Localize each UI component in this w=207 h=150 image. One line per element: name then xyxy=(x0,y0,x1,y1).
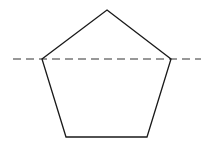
pentagon-shape xyxy=(42,10,171,137)
pentagon-diagram xyxy=(0,0,207,150)
